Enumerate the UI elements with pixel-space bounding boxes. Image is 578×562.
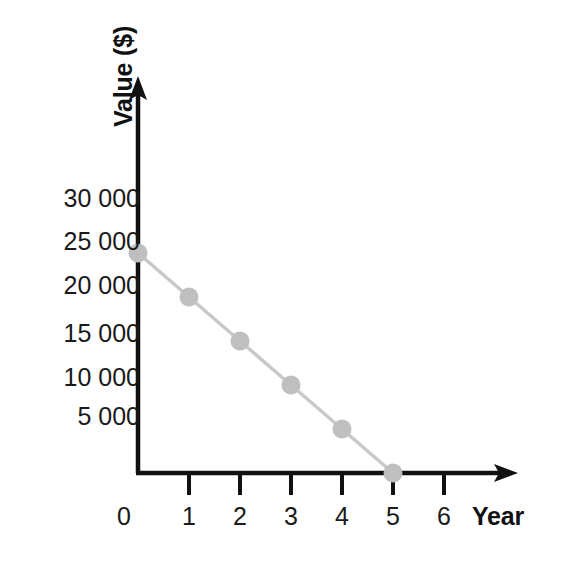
x-axis-tick-label: 2	[220, 504, 260, 529]
data-point	[333, 420, 352, 439]
y-axis-tick-label: 25 000	[0, 229, 140, 254]
y-axis-tick-label: 20 000	[0, 273, 140, 298]
x-axis-tick-marks	[189, 473, 444, 495]
data-point	[180, 288, 199, 307]
y-axis-tick-label: 15 000	[0, 321, 140, 346]
y-axis-tick-label: 30 000	[0, 186, 140, 211]
data-point	[231, 332, 250, 351]
x-axis-title: Year	[472, 502, 576, 531]
x-axis-tick-label: 4	[322, 504, 362, 529]
y-axis-tick-label: 10 000	[0, 365, 140, 390]
x-axis-tick-label: 1	[169, 504, 209, 529]
x-axis-tick-label: 0	[104, 504, 144, 529]
chart-container: Value ($) Year 30 000 25 000 20 000 15 0…	[0, 0, 578, 562]
x-axis-tick-label: 6	[424, 504, 464, 529]
y-axis-tick-label: 5 000	[0, 404, 140, 429]
y-axis-title: Value ($)	[109, 17, 138, 137]
x-axis-tick-label: 3	[271, 504, 311, 529]
data-point	[282, 376, 301, 395]
x-axis-tick-label: 5	[373, 504, 413, 529]
data-series-line	[138, 253, 393, 473]
data-point	[384, 464, 403, 483]
